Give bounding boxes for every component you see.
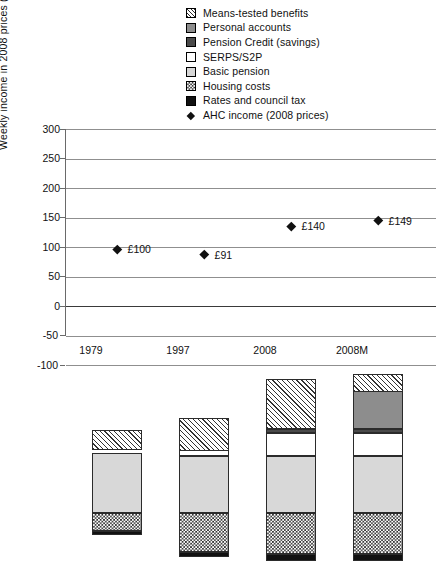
chart-legend: Means-tested benefits Personal accounts … (186, 6, 436, 123)
segment-serps-s2p-2008m (353, 433, 403, 457)
legend-item-basic-pension: Basic pension (186, 64, 436, 79)
ahc-marker-label: £149 (389, 215, 412, 227)
y-tick-label: 200 (26, 182, 60, 194)
gridline-minus-50 (66, 336, 436, 337)
y-tick-label: -100 (24, 359, 58, 371)
legend-item-label: Basic pension (203, 66, 270, 77)
segment-means-tested-1979 (92, 430, 142, 450)
legend-item-ahc-income: AHC income (2008 prices) (186, 108, 436, 123)
legend-item-serps-s2p: SERPS/S2P (186, 50, 436, 65)
segment-pension-credit-2008m (353, 429, 403, 433)
x-tick-label-1979: 1979 (56, 344, 126, 356)
legend-item-rates-and-council-tax: Rates and council tax (186, 94, 436, 109)
plot-area: £100 £91 £140 £149 (65, 129, 436, 336)
segment-basic-pension-2008 (266, 456, 316, 513)
segment-means-tested-1997 (179, 418, 229, 451)
ahc-marker-label: £91 (215, 249, 233, 261)
swatch-diagonal-hatch-icon (186, 8, 196, 18)
segment-housing-costs-1979 (92, 513, 142, 531)
x-tick-label-2008: 2008 (230, 344, 300, 356)
diamond-icon (200, 250, 209, 259)
ahc-marker-label: £140 (302, 220, 325, 232)
gridline-300 (66, 129, 436, 130)
y-axis-title: Weekly income in 2008 prices (£) (0, 0, 9, 150)
segment-housing-costs-1997 (179, 513, 229, 552)
legend-item-label: Rates and council tax (203, 95, 306, 106)
swatch-light-gray-icon (186, 67, 196, 77)
segment-rates-council-tax-2008m (353, 554, 403, 561)
gridline-zero (66, 306, 436, 307)
segment-basic-pension-1979 (92, 453, 142, 513)
segment-housing-costs-2008m (353, 513, 403, 554)
swatch-black-icon (186, 96, 196, 106)
legend-item-label: Means-tested benefits (203, 8, 308, 19)
y-tick-label: 50 (26, 270, 60, 282)
ahc-marker-1997: £91 (201, 249, 232, 261)
ahc-marker-label: £100 (128, 243, 151, 255)
y-tick-label: 0 (26, 300, 60, 312)
ahc-marker-1979: £100 (114, 243, 151, 255)
gridline-250 (66, 159, 436, 160)
legend-item-label: Pension Credit (savings) (203, 37, 320, 48)
swatch-dark-gray-icon (186, 37, 196, 47)
segment-serps-s2p-1997 (179, 450, 229, 456)
swatch-white-icon (186, 52, 196, 62)
segment-basic-pension-2008m (353, 456, 403, 513)
segment-rates-council-tax-2008 (266, 554, 316, 561)
gridline-50 (66, 277, 436, 278)
legend-item-label: Personal accounts (203, 22, 291, 33)
segment-rates-council-tax-1979 (92, 531, 142, 535)
segment-housing-costs-2008 (266, 513, 316, 554)
diamond-icon (287, 221, 296, 230)
marker-diamond-icon (186, 110, 196, 120)
segment-means-tested-2008 (266, 379, 316, 429)
y-tick-label: 300 (26, 123, 60, 135)
legend-item-pension-credit: Pension Credit (savings) (186, 35, 436, 50)
x-tick-label-2008m: 2008M (317, 344, 387, 356)
ahc-marker-2008: £140 (288, 220, 325, 232)
legend-item-housing-costs: Housing costs (186, 79, 436, 94)
y-tick-label: 150 (26, 211, 60, 223)
x-tick-label-1997: 1997 (143, 344, 213, 356)
segment-serps-s2p-2008 (266, 433, 316, 457)
diamond-icon (113, 245, 122, 254)
diamond-icon (374, 216, 383, 225)
ahc-marker-2008m: £149 (375, 215, 412, 227)
legend-item-means-tested-benefits: Means-tested benefits (186, 6, 436, 21)
gridline-minus-100 (66, 365, 436, 366)
legend-item-label: SERPS/S2P (203, 52, 262, 63)
y-tick-label: 250 (26, 152, 60, 164)
segment-basic-pension-1997 (179, 456, 229, 513)
segment-personal-accounts-2008m (353, 391, 403, 429)
segment-pension-credit-2008 (266, 429, 316, 433)
swatch-checkerboard-icon (186, 81, 196, 91)
legend-item-label: AHC income (2008 prices) (203, 110, 329, 121)
segment-means-tested-2008m (353, 374, 403, 392)
y-tick-label: -50 (24, 329, 58, 341)
swatch-medium-gray-icon (186, 23, 196, 33)
gridline-200 (66, 188, 436, 189)
y-tick-label: 100 (26, 241, 60, 253)
legend-item-label: Housing costs (203, 81, 270, 92)
legend-item-personal-accounts: Personal accounts (186, 21, 436, 36)
segment-rates-council-tax-1997 (179, 552, 229, 557)
